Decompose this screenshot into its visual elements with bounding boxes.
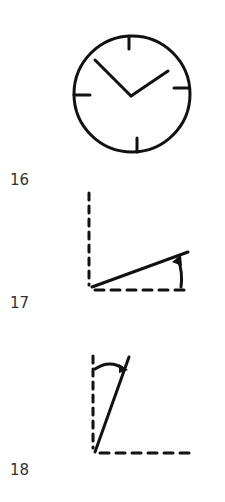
angle-from-horizontal-diagram — [89, 193, 190, 290]
angle-from-vertical-diagram — [93, 356, 191, 453]
figure-number-18: 18 — [10, 461, 29, 479]
figure-number-17: 17 — [10, 294, 29, 312]
clock-icon — [74, 36, 190, 152]
figure-number-16: 16 — [10, 171, 29, 189]
diagram-canvas — [0, 0, 225, 502]
